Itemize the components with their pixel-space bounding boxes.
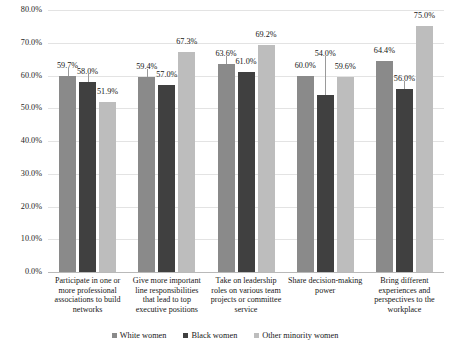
bar-slot: 63.6%: [218, 10, 235, 272]
bar-slot: 67.3%: [178, 10, 195, 272]
legend-label: White women: [120, 331, 167, 340]
bar-value-label: 67.3%: [176, 38, 197, 46]
bar-group: 59.7%58.0%51.9%: [48, 10, 127, 272]
bar-slot: 61.0%: [238, 10, 255, 272]
chart-legend: White womenBlack womenOther minority wom…: [0, 331, 450, 340]
bar-slot: 69.2%: [258, 10, 275, 272]
legend-item[interactable]: Other minority women: [254, 331, 338, 340]
bar[interactable]: [396, 89, 413, 272]
plot-area: 59.7%58.0%51.9%59.4%57.0%67.3%63.6%61.0%…: [48, 10, 444, 272]
bar-value-label: 75.0%: [414, 12, 435, 20]
x-axis-category-label: Participate in one or more professional …: [48, 276, 127, 322]
bar[interactable]: [337, 77, 354, 272]
bar-value-label: 51.9%: [97, 88, 118, 96]
legend-swatch-icon: [112, 333, 117, 338]
axis-baseline: [48, 272, 444, 273]
bar-slot: 64.4%: [376, 10, 393, 272]
bar[interactable]: [376, 61, 393, 272]
bar[interactable]: [59, 76, 76, 272]
bar-value-label: 64.4%: [374, 47, 395, 55]
bar[interactable]: [238, 72, 255, 272]
legend-swatch-icon: [254, 333, 259, 338]
bar-slot: 58.0%: [79, 10, 96, 272]
bar-value-label: 61.0%: [235, 58, 256, 66]
bar-slot: 51.9%: [99, 10, 116, 272]
bar-slot: 75.0%: [416, 10, 433, 272]
label-leader-line: [147, 69, 148, 77]
y-axis-tick-label: 20.0%: [0, 203, 42, 211]
y-axis-tick-label: 30.0%: [0, 170, 42, 178]
x-axis-category-label: Bring different experiences and perspect…: [365, 276, 444, 322]
label-leader-line: [68, 68, 69, 76]
y-axis-tick-label: 40.0%: [0, 137, 42, 145]
bar[interactable]: [317, 95, 334, 272]
bar-slot: 56.0%: [396, 10, 413, 272]
y-axis-tick-label: 10.0%: [0, 235, 42, 243]
bar-value-label: 57.0%: [156, 71, 177, 79]
bar[interactable]: [297, 76, 314, 273]
bar-slot: 59.4%: [138, 10, 155, 272]
bar[interactable]: [218, 64, 235, 272]
x-axis-category-label: Share decision-making power: [286, 276, 365, 322]
y-axis-tick-label: 70.0%: [0, 39, 42, 47]
bar[interactable]: [138, 77, 155, 272]
legend-label: Black women: [191, 331, 237, 340]
bar-value-label: 59.6%: [335, 63, 356, 71]
label-leader-line: [404, 81, 405, 89]
bar-slot: 59.7%: [59, 10, 76, 272]
bar-slot: 54.0%: [317, 10, 334, 272]
bar-group: 64.4%56.0%75.0%: [365, 10, 444, 272]
bar-slot: 60.0%: [297, 10, 314, 272]
x-axis-category-label: Give more important line responsibilitie…: [127, 276, 206, 322]
bar-group: 63.6%61.0%69.2%: [206, 10, 285, 272]
bar-chart: 0.0%10.0%20.0%30.0%40.0%50.0%60.0%70.0%8…: [0, 0, 450, 349]
y-axis-tick-label: 0.0%: [0, 268, 42, 276]
legend-item[interactable]: White women: [112, 331, 167, 340]
legend-swatch-icon: [183, 333, 188, 338]
label-leader-line: [325, 56, 326, 95]
bar[interactable]: [416, 26, 433, 272]
bar-groups: 59.7%58.0%51.9%59.4%57.0%67.3%63.6%61.0%…: [48, 10, 444, 272]
y-axis-tick-label: 80.0%: [0, 6, 42, 14]
x-axis-category-labels: Participate in one or more professional …: [48, 276, 444, 322]
bar[interactable]: [158, 85, 175, 272]
y-axis-tick-label: 60.0%: [0, 72, 42, 80]
bar[interactable]: [99, 102, 116, 272]
label-leader-line: [226, 56, 227, 64]
legend-item[interactable]: Black women: [183, 331, 237, 340]
label-leader-line: [88, 74, 89, 82]
x-axis-category-label: Take on leadership roles on various team…: [206, 276, 285, 322]
bar-value-label: 69.2%: [255, 31, 276, 39]
bar[interactable]: [258, 45, 275, 272]
bar-slot: 57.0%: [158, 10, 175, 272]
y-axis: 0.0%10.0%20.0%30.0%40.0%50.0%60.0%70.0%8…: [0, 0, 46, 349]
bar-group: 60.0%54.0%59.6%: [286, 10, 365, 272]
y-axis-tick-label: 50.0%: [0, 104, 42, 112]
legend-label: Other minority women: [262, 331, 338, 340]
bar[interactable]: [178, 52, 195, 272]
bar[interactable]: [79, 82, 96, 272]
bar-group: 59.4%57.0%67.3%: [127, 10, 206, 272]
bar-value-label: 60.0%: [295, 62, 316, 70]
bar-slot: 59.6%: [337, 10, 354, 272]
